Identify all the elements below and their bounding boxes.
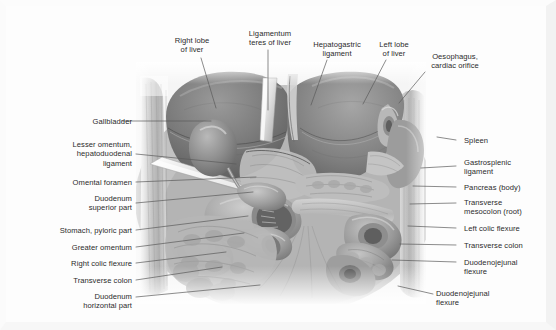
- label-transverse-colon-left: Transverse colon: [22, 276, 132, 285]
- label-duodenum-horizontal-part: Duodenum horizontal part: [22, 292, 132, 311]
- label-hepatogastric-ligament: Hepatogastric ligament: [306, 40, 368, 59]
- label-spleen: Spleen: [464, 136, 550, 145]
- label-ligamentum-teres: Ligamentum teres of liver: [239, 29, 301, 48]
- label-pancreas-body: Pancreas (body): [464, 183, 550, 192]
- label-duodenojejunal-flexure: Duodenojejunal flexure: [464, 258, 550, 277]
- label-right-colic-flexure: Right colic flexure: [22, 259, 132, 268]
- label-omental-foramen: Omental foramen: [22, 178, 132, 187]
- label-stomach-pyloric-part: Stomach, pyloric part: [12, 226, 132, 235]
- leader-spleen: [437, 137, 456, 140]
- label-left-lobe-of-liver: Left lobe of liver: [371, 40, 417, 59]
- label-left-colic-flexure: Left colic flexure: [464, 224, 550, 233]
- label-duodenum-superior-part: Duodenum superior part: [22, 194, 132, 213]
- label-transverse-mesocolon-root: Transverse mesocolon (root): [464, 198, 550, 217]
- label-lesser-omentum-hepatoduodenal: Lesser omentum, hepatoduodenal ligament: [22, 140, 132, 168]
- label-transverse-colon-right: Transverse colon: [464, 241, 550, 250]
- label-gastrosplenic-ligament: Gastrosplenic ligament: [464, 158, 550, 177]
- label-oesophagus-cardiac: Oesophagus, cardiac orifice: [420, 52, 490, 71]
- label-greater-omentum: Greater omentum: [22, 243, 132, 252]
- dissection-plate: [135, 62, 435, 315]
- label-right-lobe-of-liver: Right lobe of liver: [163, 36, 221, 55]
- anatomical-figure: Right lobe of liverLigamentum teres of l…: [0, 0, 556, 330]
- label-gallbladder: Gallbladder: [22, 117, 132, 126]
- leader-gastrosplenic: [421, 166, 456, 168]
- label-duodenojejunal-flexure-lower: Duodenojejunal flexure: [436, 289, 526, 308]
